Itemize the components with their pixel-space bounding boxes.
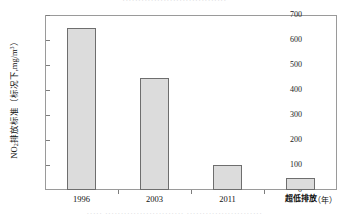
y-tick-label: 300 — [290, 111, 302, 119]
y-tick-mark — [46, 65, 50, 66]
y-tick-label: 700 — [290, 11, 302, 19]
y-axis: NO2排放标准（标况下,mg/m3） — [0, 0, 45, 190]
y-tick-mark — [46, 90, 50, 91]
x-axis-unit-label: （年） — [313, 194, 337, 205]
y-tick-label: 600 — [290, 36, 302, 44]
bar — [213, 165, 242, 190]
y-axis-label-subscript: 2 — [13, 143, 19, 146]
y-axis-label: NO2排放标准（标况下,mg/m3） — [7, 23, 19, 173]
y-tick-label: 100 — [290, 161, 302, 169]
y-axis-label-main: 排放标准（标况下,mg/m — [9, 49, 19, 143]
y-axis-label-species: NO — [9, 146, 19, 158]
x-tick-label: 1996 — [45, 194, 118, 204]
bar — [286, 178, 315, 191]
y-tick-label: 200 — [290, 136, 302, 144]
x-tick-label: 2011 — [191, 194, 264, 204]
chart-figure: ································· NO2排放标… — [0, 0, 349, 219]
bar — [140, 78, 169, 191]
y-tick-label: 400 — [290, 86, 302, 94]
y-tick-mark — [46, 115, 50, 116]
y-tick-label: 500 — [290, 61, 302, 69]
bar — [67, 28, 96, 191]
y-tick-mark — [46, 140, 50, 141]
y-tick-mark — [46, 15, 50, 16]
x-tick-label: 2003 — [118, 194, 191, 204]
y-tick-mark — [46, 165, 50, 166]
y-tick-mark — [46, 40, 50, 41]
clipped-text-top: ································· — [0, 0, 349, 5]
y-axis-label-superscript: 3 — [9, 46, 15, 49]
clipped-text-bottom: ····· ························· ········… — [0, 206, 349, 219]
y-axis-label-tail: ） — [9, 37, 19, 46]
